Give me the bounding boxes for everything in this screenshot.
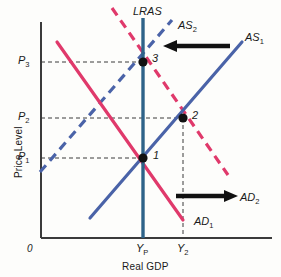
point-1-label: 1 — [153, 150, 159, 161]
origin-label: 0 — [27, 244, 33, 254]
as-ad-diagram: Price Level Real GDP 0 P3 P2 P1 YP Y2 LR… — [0, 0, 281, 277]
curve-label-as2: AS2 — [178, 20, 197, 34]
curve-label-ad1-main: AD — [194, 215, 209, 227]
curve-label-ad2-sub: 2 — [255, 197, 259, 206]
y-tick-p1: P1 — [18, 151, 30, 165]
x-tick-yp: YP — [136, 243, 148, 257]
curve-label-ad2: AD2 — [240, 192, 259, 206]
point-3-dot — [138, 57, 147, 66]
x-tick-y2: Y2 — [177, 243, 189, 257]
x-tick-yp-sub: P — [143, 248, 148, 257]
ad-shift-arrow — [176, 190, 238, 202]
curve-label-ad2-main: AD — [240, 191, 255, 203]
curve-ad2 — [112, 8, 228, 175]
curve-label-as2-main: AS — [178, 19, 193, 31]
curve-as1 — [90, 42, 242, 218]
x-tick-y2-sub: 2 — [184, 248, 188, 257]
curve-label-as1: AS1 — [245, 32, 264, 46]
point-1-dot — [138, 153, 147, 162]
curve-label-ad1: AD1 — [194, 216, 213, 230]
y-tick-p1-sub: 1 — [25, 156, 29, 165]
y-tick-p3: P3 — [18, 55, 30, 69]
curve-label-ad1-sub: 1 — [209, 221, 213, 230]
point-2-label: 2 — [192, 110, 198, 121]
diagram-canvas — [0, 0, 281, 277]
y-tick-p2-sub: 2 — [25, 116, 29, 125]
curve-label-as1-main: AS — [245, 31, 260, 43]
x-axis-title: Real GDP — [122, 262, 169, 272]
point-3-label: 3 — [152, 53, 158, 64]
curve-label-as1-sub: 1 — [260, 37, 264, 46]
as-shift-arrow — [163, 40, 230, 52]
curve-label-lras: LRAS — [133, 6, 162, 17]
curve-label-as2-sub: 2 — [193, 25, 197, 34]
y-tick-p2: P2 — [18, 111, 30, 125]
y-tick-p3-sub: 3 — [25, 60, 29, 69]
point-2-dot — [178, 113, 187, 122]
